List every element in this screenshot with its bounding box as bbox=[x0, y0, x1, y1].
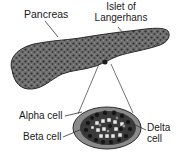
delta-cell-label-line2: cell bbox=[147, 133, 170, 144]
magnify-line-left bbox=[78, 64, 99, 114]
islet-label-line1: Islet of bbox=[92, 1, 150, 12]
islet-label-line2: Langerhans bbox=[92, 12, 150, 23]
islet-enlarged bbox=[73, 107, 141, 149]
magnify-line-right bbox=[111, 64, 133, 113]
pancreas-shape bbox=[11, 28, 169, 89]
beta-cell-label: Beta cell bbox=[23, 131, 61, 142]
delta-cell-label-line1: Delta bbox=[147, 122, 170, 133]
pancreas-diagram: Pancreas Islet of Langerhans Alpha cell … bbox=[0, 0, 177, 153]
pancreas-leader-line bbox=[45, 21, 58, 37]
pancreas-label: Pancreas bbox=[24, 9, 68, 20]
islet-marker bbox=[103, 60, 108, 65]
delta-cell-label: Delta cell bbox=[147, 122, 170, 144]
alpha-cell-label: Alpha cell bbox=[19, 110, 62, 121]
islet-label: Islet of Langerhans bbox=[92, 1, 150, 23]
